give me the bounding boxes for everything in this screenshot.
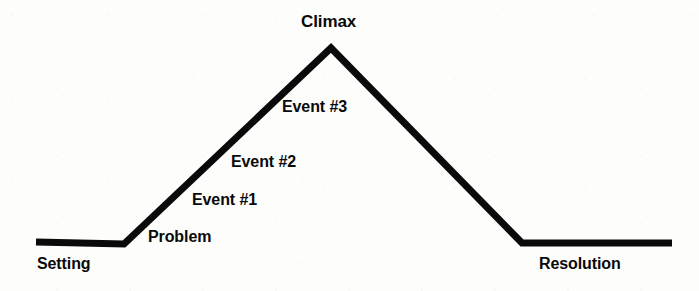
- stage-label-resolution: Resolution: [539, 256, 621, 272]
- stage-label-setting: Setting: [37, 256, 91, 272]
- stage-label-event-2: Event #2: [231, 154, 296, 170]
- stage-label-problem: Problem: [148, 229, 211, 245]
- plot-arc-svg: [0, 0, 699, 291]
- plot-arc-line: [36, 48, 672, 244]
- stage-label-event-1: Event #1: [192, 192, 257, 208]
- stage-label-event-3: Event #3: [282, 99, 347, 115]
- stage-label-climax: Climax: [301, 13, 356, 30]
- plot-diagram: Climax Event #3 Event #2 Event #1 Proble…: [0, 0, 699, 291]
